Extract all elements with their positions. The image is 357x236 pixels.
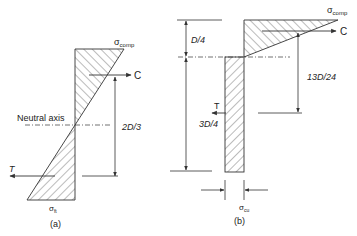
bottom-depth-label-b: 3D/4	[199, 119, 218, 129]
tension-stress-block-b	[225, 57, 244, 172]
top-depth-label-b: D/4	[191, 35, 205, 45]
sigma-comp-label-a: σcomp	[114, 37, 135, 48]
tension-label-a: T	[9, 164, 16, 174]
compression-label-a: C	[134, 70, 141, 81]
compression-stress-block-a	[75, 49, 124, 125]
tension-label-b: T	[214, 101, 220, 111]
caption-a: (a)	[50, 219, 61, 229]
stress-diagrams: σcomp C Neutral axis 2D/3 T σft (a)	[0, 0, 357, 236]
caption-b: (b)	[234, 216, 245, 226]
diagram-b: σcomp C D/4 13D/24 T 3D/4 σcu (b)	[170, 5, 348, 226]
neutral-axis-label: Neutral axis	[17, 113, 65, 123]
lever-arm-label-a: 2D/3	[121, 122, 141, 132]
compression-stress-block-b	[244, 20, 338, 57]
sigma-cu-label-b: σcu	[239, 203, 249, 213]
tension-stress-block-a	[27, 125, 75, 200]
lever-arm-label-b: 13D/24	[307, 72, 336, 82]
compression-label-b: C	[340, 26, 347, 37]
sigma-ft-label-a: σft	[49, 204, 57, 214]
sigma-comp-label-b: σcomp	[327, 5, 348, 16]
diagram-a: σcomp C Neutral axis 2D/3 T σft (a)	[9, 37, 141, 229]
